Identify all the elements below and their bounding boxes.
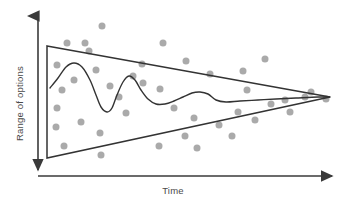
scatter-point xyxy=(262,56,269,63)
scatter-point xyxy=(98,152,105,159)
scatter-point xyxy=(93,67,100,74)
scatter-point xyxy=(229,133,236,140)
scatter-point xyxy=(183,58,190,65)
chart-canvas xyxy=(0,0,346,204)
scatter-point xyxy=(107,83,114,90)
scatter-point xyxy=(235,109,242,116)
scatter-point xyxy=(171,105,178,112)
scatter-point xyxy=(123,110,130,117)
scatter-point xyxy=(71,77,78,84)
scatter-point xyxy=(287,109,294,116)
scatter-point xyxy=(157,86,164,93)
scatter-point xyxy=(240,68,247,75)
scatter-point xyxy=(82,40,89,47)
scatter-point xyxy=(99,23,106,30)
scatter-point xyxy=(282,97,289,104)
scatter-point xyxy=(216,122,223,129)
x-axis-label: Time xyxy=(0,185,346,196)
figure-container: Range of options Time xyxy=(0,0,346,204)
scatter-point xyxy=(97,130,104,137)
scatter-point xyxy=(160,40,167,47)
scatter-point xyxy=(53,124,60,131)
scatter-point xyxy=(64,40,71,47)
y-axis-label: Range of options xyxy=(14,44,25,164)
scatter-point xyxy=(191,115,198,122)
scatter-point xyxy=(78,119,85,126)
trend-line xyxy=(50,63,330,112)
scatter-point xyxy=(156,143,163,150)
scatter-point xyxy=(194,145,201,152)
scatter-point xyxy=(268,101,275,108)
scatter-point xyxy=(59,87,66,94)
scatter-point xyxy=(140,80,147,87)
scatter-point xyxy=(182,133,189,140)
scatter-point xyxy=(244,87,251,94)
scatter-point xyxy=(54,105,61,112)
scatter-point xyxy=(54,62,61,69)
scatter-point xyxy=(61,143,68,150)
scatter-point xyxy=(252,117,259,124)
